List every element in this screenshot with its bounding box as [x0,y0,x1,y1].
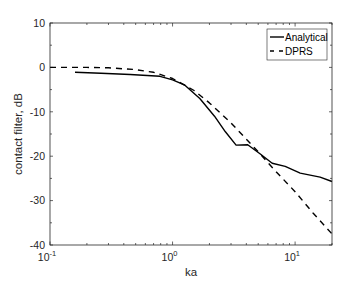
legend-label-dprs: DPRS [285,46,313,57]
y-tick-label: 10 [33,17,45,29]
y-tick-label: -20 [30,150,45,162]
chart: 100-10-20-30-40 10-1100101 ka contact fi… [0,0,348,293]
x-axis-label: ka [185,266,198,278]
y-axis-label: contact filter, dB [12,93,24,175]
legend: Analytical DPRS [267,29,328,60]
y-tick-label: -30 [30,194,45,206]
legend-label-analytical: Analytical [285,32,328,43]
y-tick-label: -10 [30,106,45,118]
y-tick-label: 0 [39,61,45,73]
y-tick-label: -40 [30,239,45,251]
